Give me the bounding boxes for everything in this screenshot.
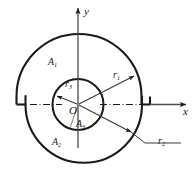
radius-label-r1-subscript: 1 xyxy=(117,74,120,81)
y-axis-label: y xyxy=(84,6,89,17)
region-label-A3-subscript: 3 xyxy=(82,123,85,130)
r3-dimension-arrow xyxy=(57,96,77,104)
x-axis-label: x xyxy=(183,106,188,117)
radius-label-r1: r1 xyxy=(113,70,120,80)
region-A1-outline xyxy=(17,34,142,105)
region-label-A1: A1 xyxy=(48,57,57,67)
radius-label-r3-subscript: 3 xyxy=(69,83,72,90)
radius-label-r2-subscript: 2 xyxy=(162,140,165,147)
origin-label: O xyxy=(69,105,77,116)
region-label-A2: A2 xyxy=(52,137,61,147)
radius-label-r2: r2 xyxy=(158,136,165,146)
r2-leader-line xyxy=(131,132,181,143)
figure-canvas: y x O A1 A2 A3 r1 r2 r3 xyxy=(0,0,194,172)
radius-label-r3: r3 xyxy=(65,79,72,89)
region-label-A2-subscript: 2 xyxy=(58,141,61,148)
region-label-A3: A3 xyxy=(76,119,85,129)
region-label-A1-subscript: 1 xyxy=(54,61,57,68)
region-A2-outline xyxy=(26,105,143,163)
